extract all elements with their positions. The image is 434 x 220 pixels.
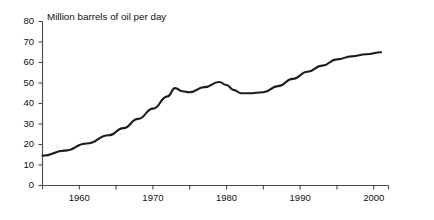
y-tick-label: 20 <box>12 139 34 149</box>
x-tick-label: 1980 <box>207 193 247 203</box>
x-tick-label: 1990 <box>280 193 320 203</box>
axes-group <box>43 22 389 186</box>
x-tick-marks <box>43 186 389 190</box>
x-tick-label: 1960 <box>59 193 99 203</box>
y-tick-marks <box>39 22 43 186</box>
y-tick-label: 70 <box>12 37 34 47</box>
data-series-line <box>43 52 382 156</box>
x-tick-label: 1970 <box>133 193 173 203</box>
y-tick-label: 50 <box>12 78 34 88</box>
y-tick-label: 10 <box>12 160 34 170</box>
y-tick-label: 60 <box>12 57 34 67</box>
chart-plot-area <box>0 0 434 220</box>
y-tick-label: 80 <box>12 16 34 26</box>
x-tick-label: 2000 <box>354 193 394 203</box>
oil-production-chart: Million barrels of oil per day 010203040… <box>0 0 434 220</box>
y-tick-label: 40 <box>12 98 34 108</box>
y-tick-label: 0 <box>12 180 34 190</box>
y-tick-label: 30 <box>12 119 34 129</box>
